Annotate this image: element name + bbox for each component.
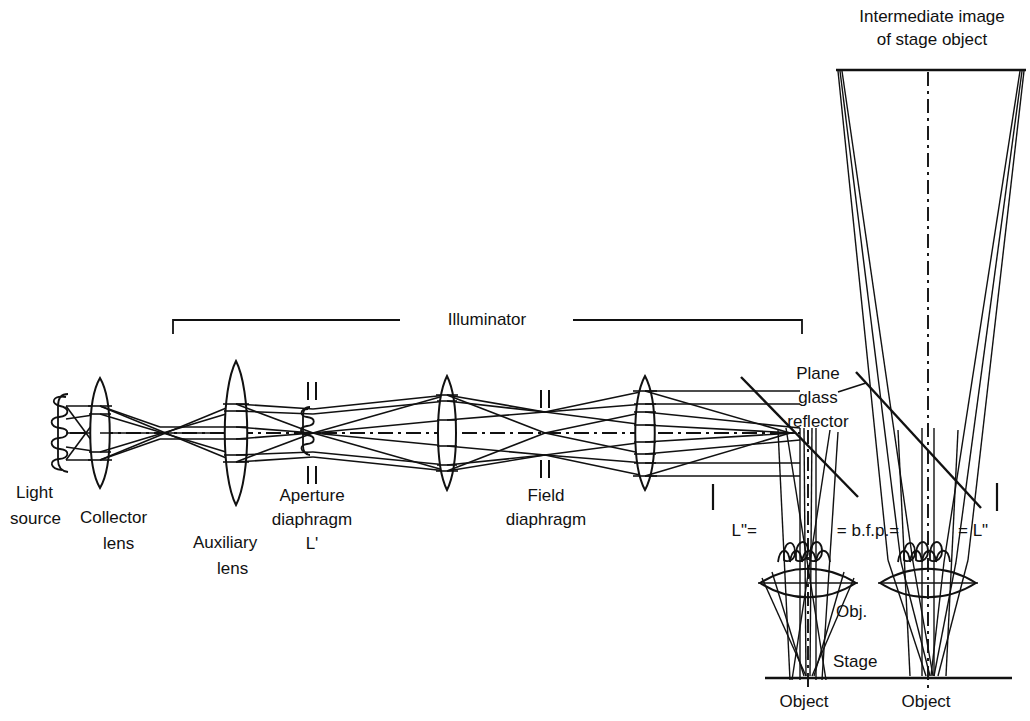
field-diaphragm-label-line1: Field (528, 486, 565, 505)
rays-collector-to-auxiliary (100, 404, 236, 462)
auxiliary-lens-body (225, 361, 248, 505)
ray-rf6 (447, 446, 545, 455)
ray-cr6 (645, 433, 790, 476)
optical-diagram: Intermediate image of stage object Illum… (0, 0, 1030, 721)
bfp-filament-right-coil (898, 542, 950, 562)
ray-fc1 (545, 391, 645, 412)
left-objective-column (758, 428, 858, 690)
filament-helix (52, 397, 68, 470)
collector-lens-label-line2: lens (103, 534, 134, 553)
plane-glass-reflector-label-line3: reflector (787, 412, 849, 431)
right-objective-column (878, 428, 978, 676)
intermediate-image-label-line2: of stage object (877, 30, 988, 49)
bracket-right-arm (573, 320, 802, 334)
optical-path-svg: Intermediate image of stage object Illum… (0, 0, 1030, 721)
L-double-prime-left-label: L"= (732, 521, 757, 540)
ray-image-left-c (842, 71, 913, 562)
ray-ca4 (100, 411, 236, 452)
relay-lens (436, 376, 458, 490)
aperture-diaphragm-label-line3: L' (306, 534, 319, 553)
ray-image-right-b (956, 71, 1022, 562)
light-source-label-line1: Light (16, 483, 53, 502)
collector-lens-label-line1: Collector (80, 508, 147, 527)
ray-cr7 (645, 425, 795, 433)
illuminator-label: Illuminator (448, 310, 527, 329)
L-double-prime-right-label: = L" (958, 521, 988, 540)
aperture-diaphragm-label-line2: diaphragm (272, 510, 352, 529)
bfp-label: = b.f.p.= (837, 521, 899, 540)
ray-rf8 (447, 433, 545, 471)
ray-lo3 (772, 572, 804, 676)
light-source-label-line2: source (10, 509, 61, 528)
object-right-label: Object (901, 692, 950, 711)
ray-image-left-a (838, 71, 888, 560)
field-diaphragm-label-line2: diaphragm (506, 510, 586, 529)
ray-fc2 (545, 455, 645, 476)
auxiliary-lens-label-line1: Auxiliary (193, 533, 258, 552)
ray-fc3 (545, 404, 645, 412)
ray-rf1 (447, 395, 545, 412)
aperture-diaphragm-label-line1: Aperture (279, 486, 344, 505)
plane-glass-reflector-label-line1: Plane (796, 364, 839, 383)
auxiliary-lens-label-line2: lens (217, 559, 248, 578)
plane-glass-reflector-leader (838, 383, 866, 392)
stage-label: Stage (833, 652, 877, 671)
ray-cr10 (645, 440, 800, 454)
object-left-label: Object (779, 692, 828, 711)
ray-ca3 (100, 414, 236, 455)
light-source-filament-coil (52, 394, 68, 472)
relay-lens-body (438, 376, 456, 490)
auxiliary-lens (223, 361, 249, 505)
plane-glass-reflector-group (741, 372, 981, 508)
ray-fc4 (545, 455, 645, 463)
bracket-left-arm (173, 320, 400, 334)
ray-rf3 (447, 401, 545, 412)
plane-glass-reflector-label-line2: glass (798, 388, 838, 407)
objective-label: Obj. (836, 602, 867, 621)
intermediate-image-label-line1: Intermediate image (859, 7, 1005, 26)
